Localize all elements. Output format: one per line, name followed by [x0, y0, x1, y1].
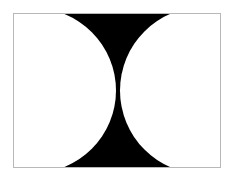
- frame-content: [0, 7, 232, 174]
- illustration-canvas: [0, 0, 232, 177]
